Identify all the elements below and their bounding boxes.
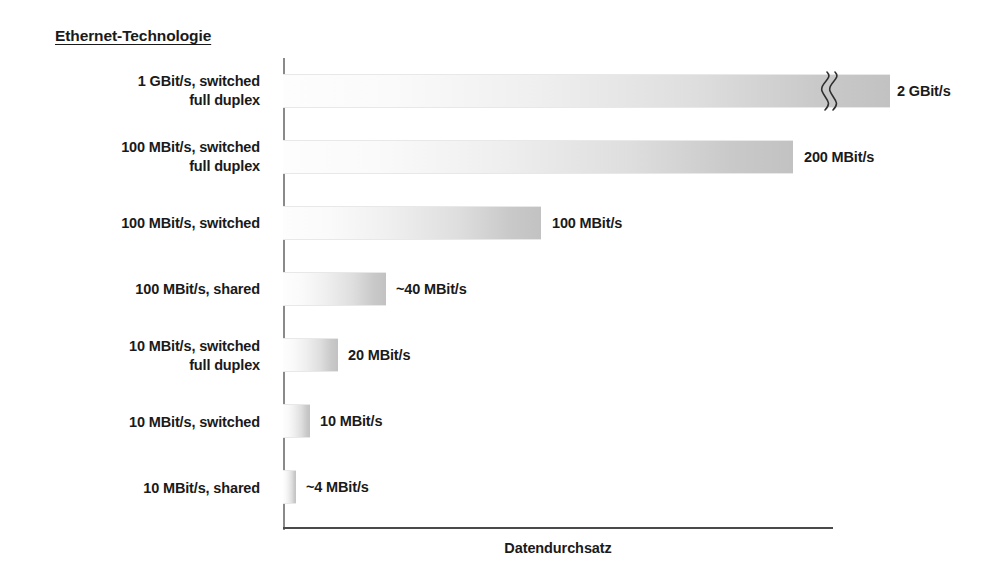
bar-100-mbit-switched-full-duplex xyxy=(283,140,793,174)
value-label-20-mbit: 20 MBit/s xyxy=(348,338,410,372)
category-label-100-mbit-shared: 100 MBit/s, shared xyxy=(10,280,260,299)
bar-100-mbit-switched xyxy=(283,206,541,240)
bar-10-mbit-switched xyxy=(283,404,310,438)
category-label-10-mbit-switched-full-duplex: 10 MBit/s, switched full duplex xyxy=(10,337,260,375)
bar-100-mbit-shared xyxy=(283,272,386,306)
bar-1-gbit-switched-full-duplex xyxy=(283,74,890,108)
category-label-10-mbit-shared: 10 MBit/s, shared xyxy=(10,479,260,498)
value-label-10-mbit: 10 MBit/s xyxy=(320,404,382,438)
category-label-100-mbit-switched-full-duplex: 100 MBit/s, switched full duplex xyxy=(10,138,260,176)
value-label-100-mbit: 100 MBit/s xyxy=(552,206,622,240)
value-axis-line xyxy=(283,527,833,529)
value-label-2-gbit: 2 GBit/s xyxy=(897,74,951,108)
ethernet-throughput-bar-chart: Ethernet-Technologie 1 GBit/s, switched … xyxy=(0,0,995,580)
value-axis-title: Datendurchsatz xyxy=(283,540,833,556)
category-label-1-gbit-switched-full-duplex: 1 GBit/s, switched full duplex xyxy=(10,72,260,110)
value-label-200-mbit: 200 MBit/s xyxy=(804,140,874,174)
plot-area: 2 GBit/s 200 MBit/s 100 MBit/s ~40 MBit/… xyxy=(283,0,995,580)
category-label-100-mbit-switched: 100 MBit/s, switched xyxy=(10,214,260,233)
value-label-4-mbit: ~4 MBit/s xyxy=(306,470,369,504)
category-label-10-mbit-switched: 10 MBit/s, switched xyxy=(10,413,260,432)
bar-10-mbit-switched-full-duplex xyxy=(283,338,338,372)
value-label-40-mbit: ~40 MBit/s xyxy=(396,272,467,306)
category-label-group: 1 GBit/s, switched full duplex 100 MBit/… xyxy=(10,0,260,580)
bar-10-mbit-shared xyxy=(283,470,296,504)
